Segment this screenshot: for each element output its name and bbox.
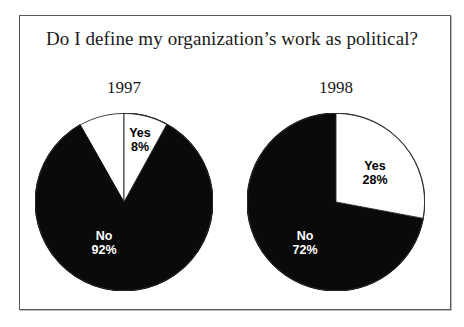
pie-chart-1998 <box>247 113 425 291</box>
pie-label-1997-no-name: No <box>80 229 128 243</box>
pie-label-1998-no-value: 72% <box>281 243 329 257</box>
pie-label-1998-no: No 72% <box>281 229 329 257</box>
pie-label-1997-no-value: 92% <box>80 243 128 257</box>
chart-label-1998: 1998 <box>296 78 376 98</box>
pie-label-1998-yes-name: Yes <box>351 159 399 173</box>
chart-label-1997: 1997 <box>84 78 164 98</box>
pie-chart-1998-svg <box>247 113 425 291</box>
page-title: Do I define my organization’s work as po… <box>0 28 464 50</box>
pie-label-1997-yes-value: 8% <box>118 140 162 154</box>
pie-label-1997-no: No 92% <box>80 229 128 257</box>
pie-label-1998-no-name: No <box>281 229 329 243</box>
figure-canvas: Do I define my organization’s work as po… <box>0 0 464 327</box>
pie-label-1997-yes: Yes 8% <box>118 126 162 154</box>
pie-label-1998-yes: Yes 28% <box>351 159 399 187</box>
pie-label-1998-yes-value: 28% <box>351 173 399 187</box>
pie-label-1997-yes-name: Yes <box>118 126 162 140</box>
